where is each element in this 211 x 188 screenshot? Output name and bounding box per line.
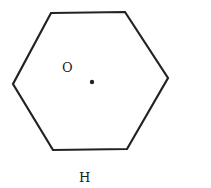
caption-label: H: [79, 170, 90, 185]
hexagon-diagram: O H: [0, 0, 211, 188]
center-dot: [90, 80, 94, 84]
center-label: O: [62, 60, 73, 75]
